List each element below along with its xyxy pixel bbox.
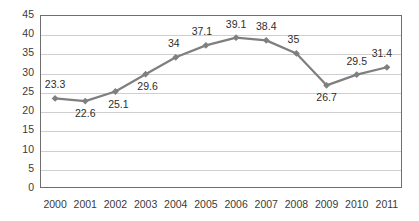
x-axis-tick: 2010 xyxy=(345,199,368,210)
line-chart: 051015202530354045 23.322.625.129.63437.… xyxy=(0,0,419,221)
x-axis-tick: 2011 xyxy=(376,199,399,210)
data-point-marker xyxy=(384,64,391,71)
data-point-label: 35 xyxy=(288,34,300,45)
data-point-label: 37.1 xyxy=(192,26,212,37)
data-point-label: 29.6 xyxy=(137,81,157,92)
data-point-label: 34 xyxy=(168,38,180,49)
x-axis-tick: 2002 xyxy=(104,199,127,210)
data-point-label: 22.6 xyxy=(75,108,95,119)
x-axis-tick: 2009 xyxy=(315,199,338,210)
x-axis-tick: 2008 xyxy=(285,199,308,210)
x-axis-tick: 2005 xyxy=(194,199,217,210)
data-point-label: 29.5 xyxy=(347,56,367,67)
data-point-marker xyxy=(263,37,270,44)
x-axis-tick: 2006 xyxy=(224,199,247,210)
data-point-label: 31.4 xyxy=(372,48,392,59)
data-point-label: 23.3 xyxy=(45,79,65,90)
data-point-marker xyxy=(203,42,210,49)
x-axis-tick: 2001 xyxy=(74,199,97,210)
series-line xyxy=(55,38,387,101)
x-axis-tick: 2003 xyxy=(134,199,157,210)
data-point-label: 26.7 xyxy=(316,92,336,103)
data-point-label: 39.1 xyxy=(226,19,246,30)
data-point-marker xyxy=(82,98,89,105)
data-point-marker xyxy=(52,95,59,102)
data-point-label: 25.1 xyxy=(108,99,128,110)
data-point-marker xyxy=(233,34,240,41)
data-point-marker xyxy=(353,71,360,78)
x-axis-tick: 2000 xyxy=(43,199,66,210)
data-point-label: 38.4 xyxy=(256,21,276,32)
series-markers xyxy=(52,34,391,104)
x-axis-tick: 2004 xyxy=(164,199,187,210)
x-axis-tick: 2007 xyxy=(255,199,278,210)
